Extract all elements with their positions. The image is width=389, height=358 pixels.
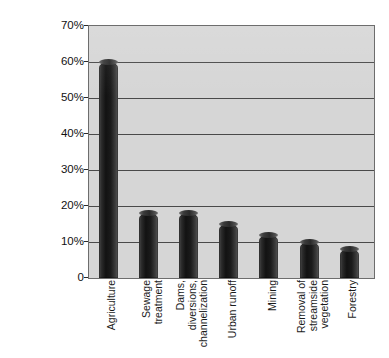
y-axis-tick-label: 40% <box>44 127 84 139</box>
y-axis-title: Percent of impaired river miles <box>0 0 22 42</box>
x-axis-category-label-line: Agriculture <box>106 280 118 358</box>
bar-top-cap <box>139 210 158 216</box>
bar <box>300 242 319 278</box>
bar-top-cap <box>259 232 278 238</box>
y-axis-tick-label: 60% <box>44 55 84 67</box>
x-axis-category-label-line: Sewage <box>141 280 153 358</box>
bar-chart: Percent of impaired river miles 70%60%50… <box>0 0 389 358</box>
x-axis-category-label: Removal ofstreamsidevegetation <box>296 280 331 358</box>
y-axis-tick-label: 50% <box>44 91 84 103</box>
bar-top-cap <box>300 239 319 245</box>
plot-area <box>88 25 375 279</box>
x-axis-category-label-line: Mining <box>267 280 279 358</box>
x-axis-category-label: Urban runoff <box>227 280 239 358</box>
bar-top-cap <box>219 221 238 227</box>
y-axis-tick-label: 10% <box>44 235 84 247</box>
x-axis-category-label-line: Forestry <box>347 280 359 358</box>
x-axis-category-label: Mining <box>267 280 279 358</box>
bar <box>99 62 118 278</box>
x-axis-category-label: Forestry <box>347 280 359 358</box>
bar <box>139 213 158 278</box>
bar-top-cap <box>99 59 118 65</box>
bar <box>259 235 278 278</box>
bar-top-cap <box>179 210 198 216</box>
x-axis-category-label-line: channelization <box>198 280 210 358</box>
y-axis-tick-label: 30% <box>44 163 84 175</box>
bar <box>179 213 198 278</box>
bars-group <box>89 26 374 278</box>
x-axis-category-label: Dams,diversions,channelization <box>175 280 210 358</box>
x-axis-category-label: Agriculture <box>106 280 118 358</box>
x-axis-category-label-line: Urban runoff <box>227 280 239 358</box>
y-axis-tick-label: 20% <box>44 199 84 211</box>
x-axis-labels: AgricultureSewagetreatmentDams,diversion… <box>0 280 389 358</box>
x-axis-category-label: Sewagetreatment <box>141 280 164 358</box>
bar <box>219 224 238 278</box>
x-axis-category-label-line: treatment <box>152 280 164 358</box>
bar <box>340 249 359 278</box>
x-axis-category-label-line: vegetation <box>319 280 331 358</box>
bar-top-cap <box>340 246 359 252</box>
x-axis-category-label-line: Removal of <box>296 280 308 358</box>
y-axis-tick-label: 70% <box>44 19 84 31</box>
